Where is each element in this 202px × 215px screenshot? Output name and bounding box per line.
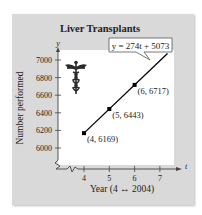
y-tick-label: 6200 [36,126,52,135]
y-tick-label: 6000 [36,144,52,153]
y-axis-label: Number performed [15,71,25,144]
data-point [133,83,137,87]
x-axis-variable: t [185,162,188,171]
chart-title: Liver Transplants [60,23,140,34]
y-tick-label: 7000 [36,56,52,65]
x-tick-label: 6 [133,174,137,183]
data-point [107,107,111,111]
equation-label: y = 274t + 5073 [112,41,170,51]
data-point [82,131,86,135]
x-tick-label: 4 [82,174,86,183]
data-point-label: (6, 6717) [138,86,169,96]
x-axis-label: Year (4 ↔ 2004) [90,184,154,195]
x-tick-label: 5 [107,174,111,183]
data-point-label: (4, 6169) [87,134,118,144]
y-tick-label: 6800 [36,74,52,83]
x-axis-arrow [176,167,182,171]
y-tick-label: 6400 [36,109,52,118]
line-chart: Liver Transplants y t Number performed Y… [0,0,202,215]
y-axis-variable: y [55,39,60,48]
data-point-label: (5, 6443) [112,110,143,120]
x-tick-label: 7 [158,174,162,183]
y-tick-label: 6600 [36,91,52,100]
